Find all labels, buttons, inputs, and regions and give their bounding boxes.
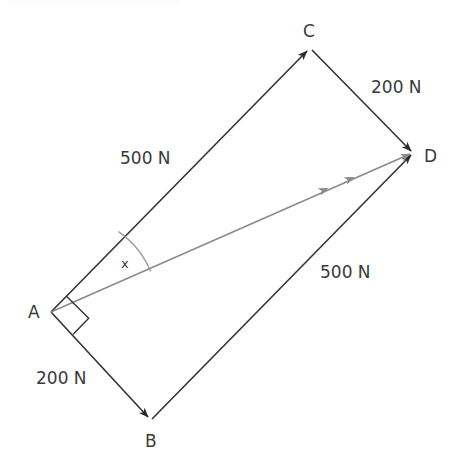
vertex-label-a: A: [28, 302, 40, 322]
edge-a-to-b: [51, 312, 148, 417]
resultant-midpoint-arrowhead-1: [300, 190, 324, 200]
force-label-ac: 500 N: [120, 148, 171, 168]
resultant-midpoint-arrowhead-2: [324, 179, 350, 190]
vertex-label-c: C: [303, 21, 315, 41]
angle-label-x: x: [121, 256, 129, 271]
vertex-label-b: B: [145, 431, 157, 451]
edge-c-to-d: [312, 50, 411, 151]
vector-diagram-canvas: A B C D 500 N 200 N 200 N 500 N x: [0, 0, 456, 463]
force-label-ab: 200 N: [36, 368, 87, 388]
vector-diagram: A B C D 500 N 200 N 200 N 500 N x: [0, 0, 456, 463]
resultant-a-to-d: [51, 154, 410, 312]
right-angle-marker: [67, 296, 89, 334]
edge-b-to-d: [152, 155, 411, 419]
force-label-cd: 200 N: [371, 77, 422, 97]
vertex-label-d: D: [424, 146, 437, 166]
edge-a-to-c: [51, 51, 307, 312]
force-label-bd: 500 N: [320, 262, 371, 282]
